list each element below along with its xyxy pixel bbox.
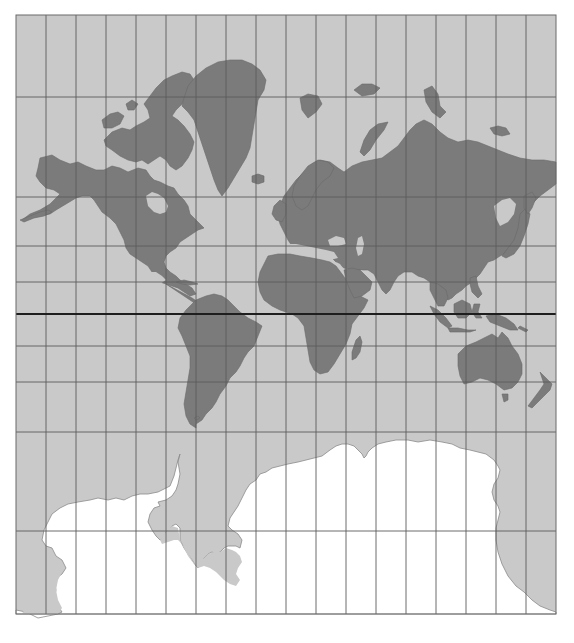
world-map bbox=[0, 0, 574, 643]
iceland bbox=[252, 174, 264, 184]
